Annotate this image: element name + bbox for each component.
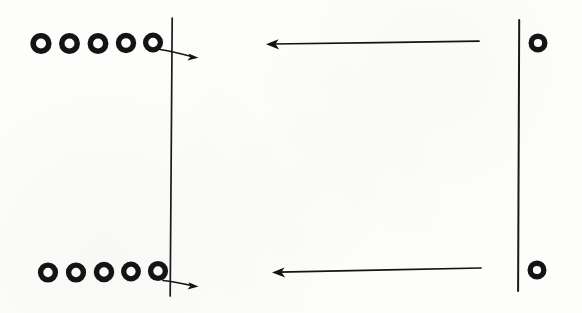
ring xyxy=(33,36,49,52)
ring xyxy=(530,263,544,277)
ring xyxy=(90,36,105,51)
ring xyxy=(124,264,139,279)
bottom-row-group xyxy=(41,263,544,289)
top-row-group xyxy=(33,35,545,61)
right-barrier xyxy=(518,20,519,291)
left-barrier xyxy=(170,18,172,296)
ring xyxy=(69,265,84,280)
ring xyxy=(151,264,166,279)
ring xyxy=(97,265,112,280)
diagram-svg xyxy=(0,0,582,313)
top-right-ring xyxy=(531,36,545,50)
top-outward-arrow xyxy=(160,50,199,61)
top-left-ring-cluster xyxy=(33,35,160,51)
ring xyxy=(146,35,161,50)
ring xyxy=(119,36,134,51)
top-inward-arrow xyxy=(266,39,479,49)
bottom-right-ring xyxy=(530,263,544,277)
bottom-outward-arrow xyxy=(163,281,199,290)
ring xyxy=(531,36,545,50)
ring xyxy=(62,36,77,51)
bottom-inward-arrow xyxy=(272,267,481,277)
bottom-left-ring-cluster xyxy=(41,264,166,280)
diagram-canvas xyxy=(0,0,582,313)
ring xyxy=(41,265,56,280)
